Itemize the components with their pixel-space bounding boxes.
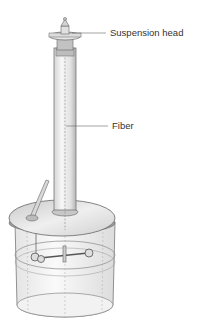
fiber-label: Fiber — [112, 120, 134, 131]
glass-cylinder — [15, 222, 115, 318]
suspension-head — [49, 17, 81, 50]
suspension-head-label: Suspension head — [110, 27, 183, 38]
fiber-tube — [52, 40, 78, 230]
torsion-balance-illustration — [0, 0, 215, 330]
diagram-root: Suspension head Fiber — [0, 0, 215, 330]
